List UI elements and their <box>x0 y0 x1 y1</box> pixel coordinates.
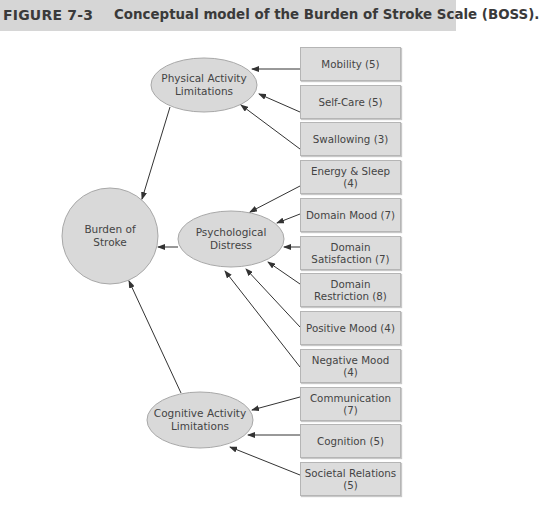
box-mobility: Mobility (5) <box>300 47 401 81</box>
arrow-communication <box>252 397 300 410</box>
box-positive-mood: Positive Mood (4) <box>300 311 401 345</box>
box-communication: Communication (7) <box>300 387 401 421</box>
box-domain-mood: Domain Mood (7) <box>300 198 401 232</box>
box-negative-mood: Negative Mood (4) <box>300 349 401 383</box>
box-cognition: Cognition (5) <box>300 424 401 458</box>
box-domain-satisfaction: Domain Satisfaction (7) <box>300 236 401 270</box>
arrow-cognitive-to-burden <box>129 281 181 393</box>
arrow-positive-mood <box>246 269 300 327</box>
arrow-domain-restriction <box>268 262 300 284</box>
burden-node: Burden of Stroke <box>80 218 140 254</box>
psychological-node: Psychological Distress <box>190 224 272 254</box>
cognitive-node: Cognitive Activity Limitations <box>150 405 250 435</box>
arrow-negative-mood <box>225 271 300 367</box>
physical-node: Physical Activity Limitations <box>160 70 248 100</box>
arrow-domain-mood <box>277 214 300 223</box>
box-energy-sleep: Energy & Sleep (4) <box>300 160 401 194</box>
arrow-self-care <box>259 94 300 112</box>
box-swallowing: Swallowing (3) <box>300 122 401 156</box>
box-domain-restriction: Domain Restriction (8) <box>300 273 401 307</box>
arrow-societal-relations <box>230 447 300 475</box>
arrow-physical-to-burden <box>142 107 170 199</box>
box-societal-relations: Societal Relations (5) <box>300 462 401 496</box>
arrow-energy-sleep <box>250 186 300 212</box>
arrow-swallowing <box>241 105 300 149</box>
box-self-care: Self-Care (5) <box>300 85 401 119</box>
